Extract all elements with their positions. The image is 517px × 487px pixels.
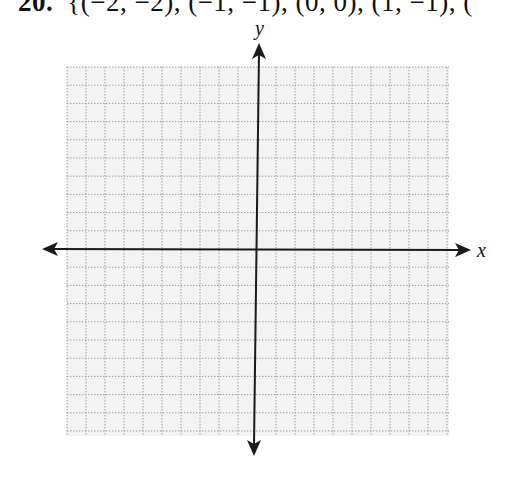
x-axis-label: x [476,239,486,261]
coordinate-plane: y x [0,0,517,487]
y-axis-label: y [253,17,264,40]
